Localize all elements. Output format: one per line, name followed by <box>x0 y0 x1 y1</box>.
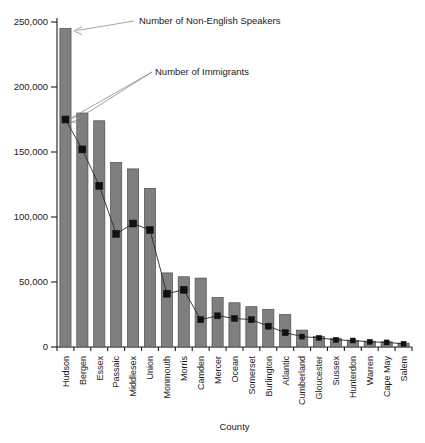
bar-ocean: Ocean: 34,000 <box>229 303 240 347</box>
x-tick-label: Bergen <box>78 356 88 385</box>
x-tick-label: Warren <box>365 356 375 385</box>
bar-passaic: Passaic: 142,000 <box>111 162 122 347</box>
marker-cape-may: Cape May: 3,500 <box>384 340 389 345</box>
marker-morris: Morris: 44,000 <box>180 286 187 293</box>
marker-salem: Salem: 2,500 <box>401 341 406 346</box>
marker-essex: Essex: 124,000 <box>96 182 103 189</box>
y-tick-label: 200,000 <box>14 81 48 92</box>
x-tick-label: Mercer <box>213 356 223 384</box>
x-axis <box>57 347 412 351</box>
chart-canvas: 050,000100,000150,000200,000250,000 Huds… <box>0 0 425 443</box>
bar-hudson: Hudson: 245,000 <box>60 29 71 348</box>
bar-essex: Essex: 174,000 <box>94 121 105 347</box>
y-tick-label: 100,000 <box>14 211 48 222</box>
x-tick-label: Camden <box>196 356 206 390</box>
annotation-label-non-english-speakers: Number of Non-English Speakers <box>139 15 281 26</box>
x-tick-label: Sussex <box>331 356 341 386</box>
annotation-label-immigrants: Number of Immigrants <box>155 66 249 77</box>
marker-sussex: Sussex: 5,500 <box>333 337 338 342</box>
marker-hudson: Hudson: 175,000 <box>62 116 69 123</box>
x-tick-label: Ocean <box>230 356 240 383</box>
y-tick-label: 250,000 <box>14 16 48 27</box>
x-tick-label: Burlington <box>264 356 274 397</box>
x-axis-title: County <box>219 421 249 432</box>
y-tick-label: 0 <box>43 341 48 352</box>
x-tick-label: Passaic <box>111 356 121 388</box>
y-tick-label: 50,000 <box>19 276 48 287</box>
marker-passaic: Passaic: 87,000 <box>113 230 120 237</box>
bar-union: Union: 122,000 <box>144 188 155 347</box>
annotation-leader-immigrants <box>70 72 152 119</box>
x-tick-labels: HudsonBergenEssexPassaicMiddlesexUnionMo… <box>61 356 409 432</box>
marker-middlesex: Middlesex: 95,000 <box>130 220 137 227</box>
marker-cumberland: Cumberland: 8,000 <box>300 334 305 339</box>
marker-union: Union: 90,000 <box>146 227 153 234</box>
marker-burlington: Burlington: 16,000 <box>265 323 271 329</box>
bar-middlesex: Middlesex: 137,000 <box>127 169 138 347</box>
x-tick-label: Monmouth <box>162 356 172 399</box>
annotation-leader-immigrants-2 <box>70 72 152 124</box>
x-tick-label: Salem <box>399 356 409 382</box>
annotation-leader-non-english <box>77 21 134 31</box>
marker-monmouth: Monmouth: 41,000 <box>163 290 170 297</box>
marker-somerset: Somerset: 21,000 <box>248 317 254 323</box>
marker-camden: Camden: 21,000 <box>198 317 204 323</box>
chart-annotations: Number of Non-English SpeakersNumber of … <box>69 15 280 124</box>
marker-atlantic: Atlantic: 11,000 <box>282 330 288 336</box>
y-axis: 050,000100,000150,000200,000250,000 <box>14 16 57 352</box>
y-tick-label: 150,000 <box>14 146 48 157</box>
x-tick-label: Union <box>145 356 155 380</box>
x-tick-label: Essex <box>95 356 105 381</box>
bar-mercer: Mercer: 38,000 <box>212 298 223 347</box>
marker-ocean: Ocean: 22,000 <box>232 315 238 321</box>
marker-gloucester: Gloucester: 7,000 <box>317 335 322 340</box>
marker-hunterdon: Hunterdon: 5,000 <box>350 338 355 343</box>
marker-mercer: Mercer: 24,000 <box>215 313 221 319</box>
x-tick-label: Morris <box>179 356 189 381</box>
bar-somerset: Somerset: 31,000 <box>246 307 257 347</box>
x-tick-label: Somerset <box>247 356 257 395</box>
marker-bergen: Bergen: 152,000 <box>79 146 86 153</box>
marker-warren: Warren: 4,000 <box>367 339 372 344</box>
bar-monmouth: Monmouth: 57,000 <box>161 273 172 347</box>
x-tick-label: Hunterdon <box>348 356 358 398</box>
x-tick-label: Cumberland <box>297 356 307 405</box>
x-tick-label: Middlesex <box>128 356 138 397</box>
x-tick-label: Gloucester <box>314 356 324 400</box>
chart-container: 050,000100,000150,000200,000250,000 Huds… <box>0 0 425 443</box>
x-tick-label: Atlantic <box>281 356 291 386</box>
x-tick-label: Hudson <box>61 356 71 387</box>
x-tick-label: Cape May <box>382 356 392 398</box>
